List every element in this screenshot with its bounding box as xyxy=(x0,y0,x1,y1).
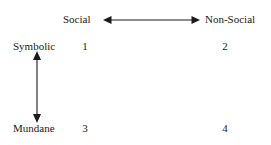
quadrant-cell-1: 1 xyxy=(80,40,90,53)
axis-label-social: Social xyxy=(63,13,91,26)
quadrant-cell-4: 4 xyxy=(220,122,230,135)
axis-label-non-social: Non-Social xyxy=(205,13,255,26)
vertical-double-arrow-icon xyxy=(28,50,46,124)
matrix-diagram: Social Non-Social Symbolic Mundane 1 2 3… xyxy=(0,0,271,145)
quadrant-cell-3: 3 xyxy=(80,122,90,135)
horizontal-double-arrow-icon xyxy=(101,12,202,28)
quadrant-cell-2: 2 xyxy=(220,40,230,53)
